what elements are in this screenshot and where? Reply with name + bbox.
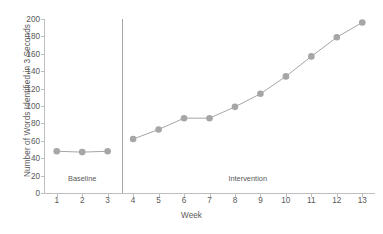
single-subject-line-chart: Number of Words Identified in 3 Seconds … xyxy=(0,0,383,234)
data-point xyxy=(53,148,60,155)
data-point xyxy=(104,148,111,155)
y-tick-label: 200 xyxy=(18,15,40,24)
data-series-layer xyxy=(44,19,375,193)
x-tick-label: 7 xyxy=(207,196,212,205)
data-point xyxy=(181,115,188,122)
y-tick-label: 160 xyxy=(18,49,40,58)
data-point xyxy=(257,91,264,98)
y-tick-label: 20 xyxy=(18,171,40,180)
series-line xyxy=(133,22,362,139)
x-tick-label: 11 xyxy=(307,196,316,205)
phase-label-intervention: Intervention xyxy=(228,174,267,183)
x-tick-label: 1 xyxy=(54,196,59,205)
data-point xyxy=(232,104,239,111)
y-tick-label: 40 xyxy=(18,154,40,163)
data-point xyxy=(155,126,162,133)
data-point xyxy=(334,34,341,41)
data-point xyxy=(130,136,137,143)
y-tick-label: 100 xyxy=(18,102,40,111)
data-point xyxy=(359,19,366,26)
y-tick-mark xyxy=(41,193,44,194)
y-tick-label: 0 xyxy=(18,189,40,198)
x-tick-label: 12 xyxy=(332,196,341,205)
x-tick-label: 4 xyxy=(131,196,136,205)
data-point xyxy=(283,73,290,80)
y-tick-label: 120 xyxy=(18,84,40,93)
data-point xyxy=(308,53,315,60)
series-baseline xyxy=(53,148,111,155)
x-axis-title: Week xyxy=(0,211,383,220)
x-tick-label: 5 xyxy=(156,196,161,205)
plot-area: BaselineIntervention xyxy=(44,19,375,193)
data-point xyxy=(79,149,86,156)
phase-label-baseline: Baseline xyxy=(68,174,96,183)
x-tick-label: 10 xyxy=(281,196,290,205)
y-tick-label: 60 xyxy=(18,136,40,145)
y-tick-label: 140 xyxy=(18,67,40,76)
x-tick-label: 13 xyxy=(358,196,367,205)
series-intervention xyxy=(130,19,366,142)
x-tick-label: 6 xyxy=(182,196,187,205)
y-tick-label: 180 xyxy=(18,32,40,41)
x-tick-label: 8 xyxy=(233,196,238,205)
y-axis-tick-labels: 020406080100120140160180200 xyxy=(18,0,40,234)
x-tick-label: 2 xyxy=(80,196,85,205)
x-tick-label: 3 xyxy=(105,196,110,205)
y-tick-label: 80 xyxy=(18,119,40,128)
phase-change-line xyxy=(122,19,123,193)
x-tick-label: 9 xyxy=(258,196,263,205)
data-point xyxy=(206,115,213,122)
x-axis-tick-labels: 12345678910111213 xyxy=(44,196,375,212)
